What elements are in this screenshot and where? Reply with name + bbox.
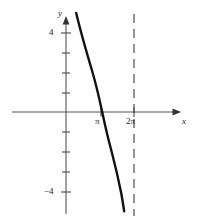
x-axis-arrow-icon bbox=[173, 109, 182, 116]
math-figure: y x 4 −4 π 2π bbox=[0, 0, 198, 222]
x-tick-label-pi: π bbox=[95, 117, 100, 126]
y-tick-label-neg4: −4 bbox=[44, 187, 54, 196]
plot-canvas bbox=[0, 0, 198, 222]
y-axis-arrow-icon bbox=[63, 16, 70, 25]
y-axis-label: y bbox=[58, 9, 62, 18]
x-tick-label-2pi: 2π bbox=[126, 117, 135, 126]
x-axis-label: x bbox=[182, 117, 186, 126]
y-tick-label-4: 4 bbox=[49, 28, 54, 37]
